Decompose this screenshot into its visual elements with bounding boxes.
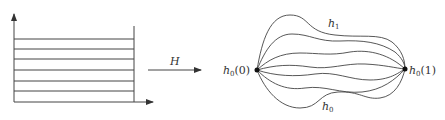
- map-label-h: H: [169, 55, 180, 68]
- map-arrow: H: [148, 55, 201, 70]
- curve-5: [257, 69, 405, 80]
- left-rectangle-panel: [14, 14, 153, 102]
- curve-4: [257, 64, 405, 70]
- start-point: [255, 68, 260, 73]
- end-label: h0(1): [409, 64, 436, 78]
- curve-6: [257, 69, 405, 92]
- curve-2: [257, 34, 405, 70]
- diagram-canvas: H h0(0) h0(1) h1 h0: [0, 0, 445, 120]
- start-label: h0(0): [223, 64, 250, 78]
- end-point: [403, 67, 408, 72]
- bottom-curve-label: h0: [322, 100, 334, 114]
- top-curve-label: h1: [328, 17, 340, 31]
